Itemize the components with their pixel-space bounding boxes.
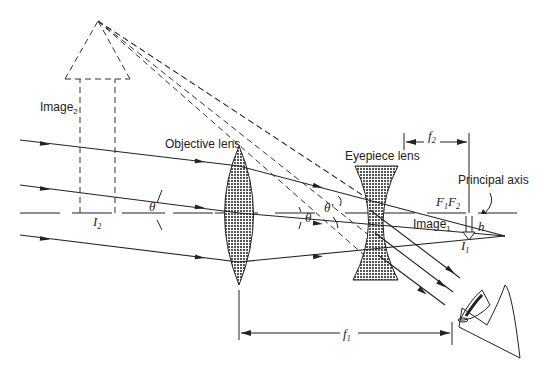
image2-label: Image2 [40,100,78,116]
theta-prime-label: θ' [324,200,333,215]
I2-label: I2 [92,214,101,231]
f2-label: f2 [428,128,436,145]
h-label: h [478,219,485,234]
objective-lens [225,146,254,285]
image1-label: Image1 [413,217,451,233]
principal-axis-pointer [485,193,492,213]
f1-label: f1 [343,326,351,343]
theta-label-left: θ [149,199,156,214]
eye-icon [458,285,520,358]
f1f2-focal-label: F1F2 [435,194,460,211]
incident-rays [20,140,239,262]
I1-label: I1 [460,238,469,255]
theta-label-eyepiece: θ [305,210,312,225]
eyepiece-lens-label: Eyepiece lens [345,149,420,163]
objective-lens-label: Objective lens [165,137,240,151]
principal-axis-label: Principal axis [458,173,529,187]
telescope-ray-diagram: Image2 Objective lens Eyepiece lens Prin… [0,0,551,386]
image2-arrow [65,21,130,213]
